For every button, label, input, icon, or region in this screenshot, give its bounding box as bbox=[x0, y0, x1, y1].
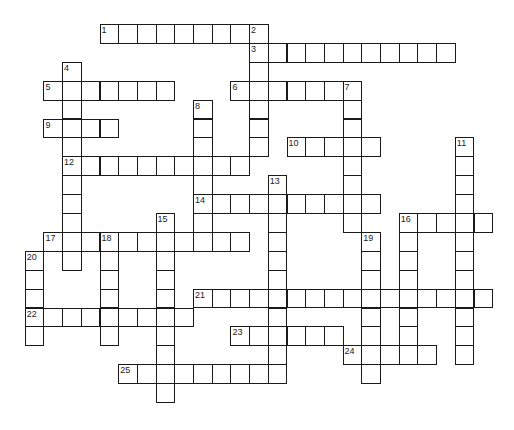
crossword-cell[interactable] bbox=[436, 289, 456, 309]
crossword-cell[interactable] bbox=[62, 175, 82, 195]
crossword-cell[interactable] bbox=[81, 232, 101, 252]
crossword-cell[interactable] bbox=[305, 326, 325, 346]
crossword-cell[interactable]: 22 bbox=[25, 308, 45, 328]
crossword-cell[interactable] bbox=[361, 364, 381, 384]
crossword-cell[interactable] bbox=[25, 289, 45, 309]
crossword-cell[interactable] bbox=[62, 81, 82, 101]
crossword-cell[interactable] bbox=[212, 364, 232, 384]
crossword-cell[interactable] bbox=[62, 119, 82, 139]
crossword-cell[interactable] bbox=[25, 326, 45, 346]
crossword-cell[interactable] bbox=[100, 289, 120, 309]
crossword-cell[interactable] bbox=[287, 43, 307, 63]
crossword-cell[interactable] bbox=[230, 232, 250, 252]
crossword-cell[interactable] bbox=[399, 232, 419, 252]
crossword-cell[interactable] bbox=[249, 81, 269, 101]
crossword-cell[interactable] bbox=[455, 308, 475, 328]
crossword-cell[interactable] bbox=[268, 213, 288, 233]
crossword-cell[interactable] bbox=[62, 213, 82, 233]
crossword-cell[interactable] bbox=[156, 326, 176, 346]
crossword-cell[interactable] bbox=[455, 232, 475, 252]
crossword-cell[interactable] bbox=[268, 43, 288, 63]
crossword-cell[interactable]: 4 bbox=[62, 62, 82, 82]
crossword-cell[interactable] bbox=[118, 232, 138, 252]
crossword-cell[interactable] bbox=[455, 345, 475, 365]
crossword-cell[interactable] bbox=[249, 137, 269, 157]
crossword-cell[interactable] bbox=[249, 62, 269, 82]
crossword-cell[interactable] bbox=[399, 289, 419, 309]
crossword-cell[interactable]: 25 bbox=[118, 364, 138, 384]
crossword-cell[interactable] bbox=[305, 289, 325, 309]
crossword-cell[interactable]: 10 bbox=[287, 137, 307, 157]
crossword-cell[interactable] bbox=[156, 289, 176, 309]
crossword-cell[interactable] bbox=[62, 232, 82, 252]
crossword-cell[interactable] bbox=[230, 156, 250, 176]
crossword-cell[interactable]: 7 bbox=[343, 81, 363, 101]
crossword-cell[interactable] bbox=[268, 345, 288, 365]
crossword-cell[interactable]: 12 bbox=[62, 156, 82, 176]
crossword-cell[interactable]: 8 bbox=[193, 100, 213, 120]
crossword-cell[interactable] bbox=[361, 43, 381, 63]
crossword-cell[interactable] bbox=[324, 137, 344, 157]
crossword-cell[interactable] bbox=[156, 81, 176, 101]
crossword-cell[interactable] bbox=[268, 251, 288, 271]
crossword-cell[interactable]: 3 bbox=[249, 43, 269, 63]
crossword-cell[interactable] bbox=[100, 156, 120, 176]
crossword-cell[interactable] bbox=[361, 194, 381, 214]
crossword-cell[interactable] bbox=[156, 383, 176, 403]
crossword-cell[interactable] bbox=[174, 232, 194, 252]
crossword-cell[interactable] bbox=[81, 81, 101, 101]
crossword-cell[interactable] bbox=[474, 213, 494, 233]
crossword-cell[interactable] bbox=[174, 24, 194, 44]
crossword-cell[interactable] bbox=[193, 213, 213, 233]
crossword-cell[interactable]: 5 bbox=[43, 81, 63, 101]
crossword-cell[interactable] bbox=[380, 289, 400, 309]
crossword-cell[interactable] bbox=[100, 270, 120, 290]
crossword-cell[interactable] bbox=[455, 270, 475, 290]
crossword-cell[interactable] bbox=[343, 43, 363, 63]
crossword-cell[interactable]: 16 bbox=[399, 213, 419, 233]
crossword-cell[interactable] bbox=[137, 156, 157, 176]
crossword-cell[interactable] bbox=[193, 364, 213, 384]
crossword-cell[interactable] bbox=[287, 81, 307, 101]
crossword-cell[interactable] bbox=[212, 232, 232, 252]
crossword-cell[interactable]: 24 bbox=[343, 345, 363, 365]
crossword-cell[interactable]: 21 bbox=[193, 289, 213, 309]
crossword-cell[interactable] bbox=[361, 251, 381, 271]
crossword-cell[interactable] bbox=[193, 119, 213, 139]
crossword-cell[interactable] bbox=[324, 326, 344, 346]
crossword-cell[interactable] bbox=[118, 24, 138, 44]
crossword-cell[interactable] bbox=[156, 24, 176, 44]
crossword-cell[interactable] bbox=[156, 364, 176, 384]
crossword-cell[interactable] bbox=[343, 156, 363, 176]
crossword-cell[interactable] bbox=[249, 119, 269, 139]
crossword-cell[interactable] bbox=[287, 326, 307, 346]
crossword-cell[interactable] bbox=[399, 308, 419, 328]
crossword-cell[interactable] bbox=[343, 289, 363, 309]
crossword-cell[interactable] bbox=[399, 251, 419, 271]
crossword-cell[interactable] bbox=[249, 326, 269, 346]
crossword-cell[interactable] bbox=[193, 137, 213, 157]
crossword-cell[interactable]: 20 bbox=[25, 251, 45, 271]
crossword-cell[interactable] bbox=[156, 308, 176, 328]
crossword-cell[interactable] bbox=[455, 289, 475, 309]
crossword-cell[interactable] bbox=[193, 156, 213, 176]
crossword-cell[interactable] bbox=[417, 345, 437, 365]
crossword-cell[interactable] bbox=[43, 308, 63, 328]
crossword-cell[interactable] bbox=[361, 289, 381, 309]
crossword-cell[interactable] bbox=[380, 43, 400, 63]
crossword-cell[interactable] bbox=[81, 308, 101, 328]
crossword-cell[interactable] bbox=[343, 213, 363, 233]
crossword-cell[interactable] bbox=[455, 251, 475, 271]
crossword-cell[interactable] bbox=[361, 137, 381, 157]
crossword-cell[interactable] bbox=[81, 119, 101, 139]
crossword-cell[interactable] bbox=[361, 308, 381, 328]
crossword-cell[interactable] bbox=[343, 194, 363, 214]
crossword-cell[interactable] bbox=[343, 175, 363, 195]
crossword-cell[interactable] bbox=[193, 232, 213, 252]
crossword-cell[interactable] bbox=[455, 156, 475, 176]
crossword-cell[interactable] bbox=[193, 24, 213, 44]
crossword-cell[interactable] bbox=[212, 289, 232, 309]
crossword-cell[interactable]: 15 bbox=[156, 213, 176, 233]
crossword-cell[interactable] bbox=[100, 119, 120, 139]
crossword-cell[interactable] bbox=[137, 308, 157, 328]
